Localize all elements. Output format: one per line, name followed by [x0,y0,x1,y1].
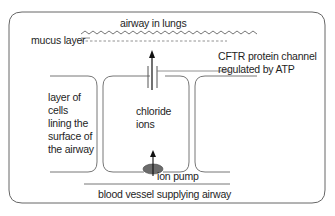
pump-arrowhead-icon [150,150,156,157]
arrowhead-icon [149,50,155,58]
cells-label-5: the airway [48,143,94,156]
blood-vessel-label: blood vessel supplying airway [98,188,231,201]
ions-label: ions [136,118,154,131]
cftr-label-line1: CFTR protein channel [218,50,317,63]
cells-label-1: layer of [48,91,81,104]
cftr-label-line2: regulated by ATP [218,63,295,76]
cells-label-4: surface of [48,130,92,143]
airway-wave [81,31,257,34]
cells-label-3: lining the [48,117,88,130]
ion-pump-label: ion pump [157,170,199,183]
cells-label-2: cells [48,104,68,117]
airway-label: airway in lungs [120,17,186,30]
mucus-layer-label: mucus layer [31,34,85,47]
chloride-label: chloride [136,105,171,118]
right-cell [195,76,257,172]
